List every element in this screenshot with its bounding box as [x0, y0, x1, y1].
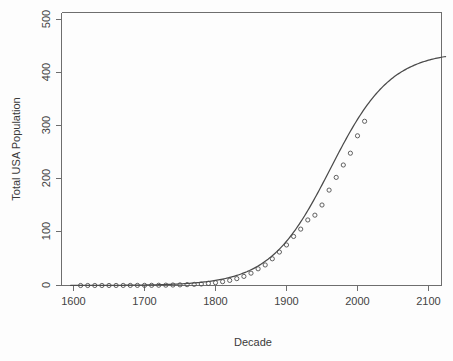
population-logistic-chart: 0 100 200 300 400 500 1600 1700 1800 190… [0, 0, 453, 361]
x-axis-title: Decade [234, 336, 272, 348]
x-tick-label-2000: 2000 [345, 295, 369, 307]
x-axis-ticks [74, 286, 429, 292]
x-tick-label-2100: 2100 [416, 295, 440, 307]
y-tick-label-200: 200 [40, 169, 52, 187]
x-tick-label-1700: 1700 [132, 295, 156, 307]
x-axis-tick-labels: 1600 1700 1800 1900 2000 2100 [61, 295, 440, 307]
plot-panel-background [61, 12, 442, 285]
x-tick-label-1800: 1800 [203, 295, 227, 307]
y-tick-label-0: 0 [40, 282, 52, 288]
chart-figure: 0 100 200 300 400 500 1600 1700 1800 190… [0, 0, 453, 361]
y-axis-tick-labels: 0 100 200 300 400 500 [40, 10, 52, 288]
y-tick-label-500: 500 [40, 10, 52, 28]
y-axis-ticks [56, 20, 62, 286]
y-tick-label-300: 300 [40, 116, 52, 134]
y-tick-label-400: 400 [40, 63, 52, 81]
y-tick-label-100: 100 [40, 222, 52, 240]
x-tick-label-1900: 1900 [274, 295, 298, 307]
y-axis-title: Total USA Population [10, 97, 22, 200]
x-tick-label-1600: 1600 [61, 295, 85, 307]
